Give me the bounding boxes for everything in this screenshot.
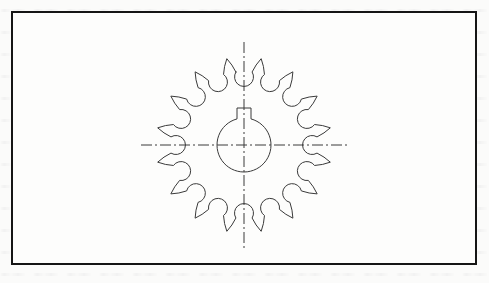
sprocket-drawing <box>0 0 489 283</box>
drawing-page <box>0 0 489 283</box>
